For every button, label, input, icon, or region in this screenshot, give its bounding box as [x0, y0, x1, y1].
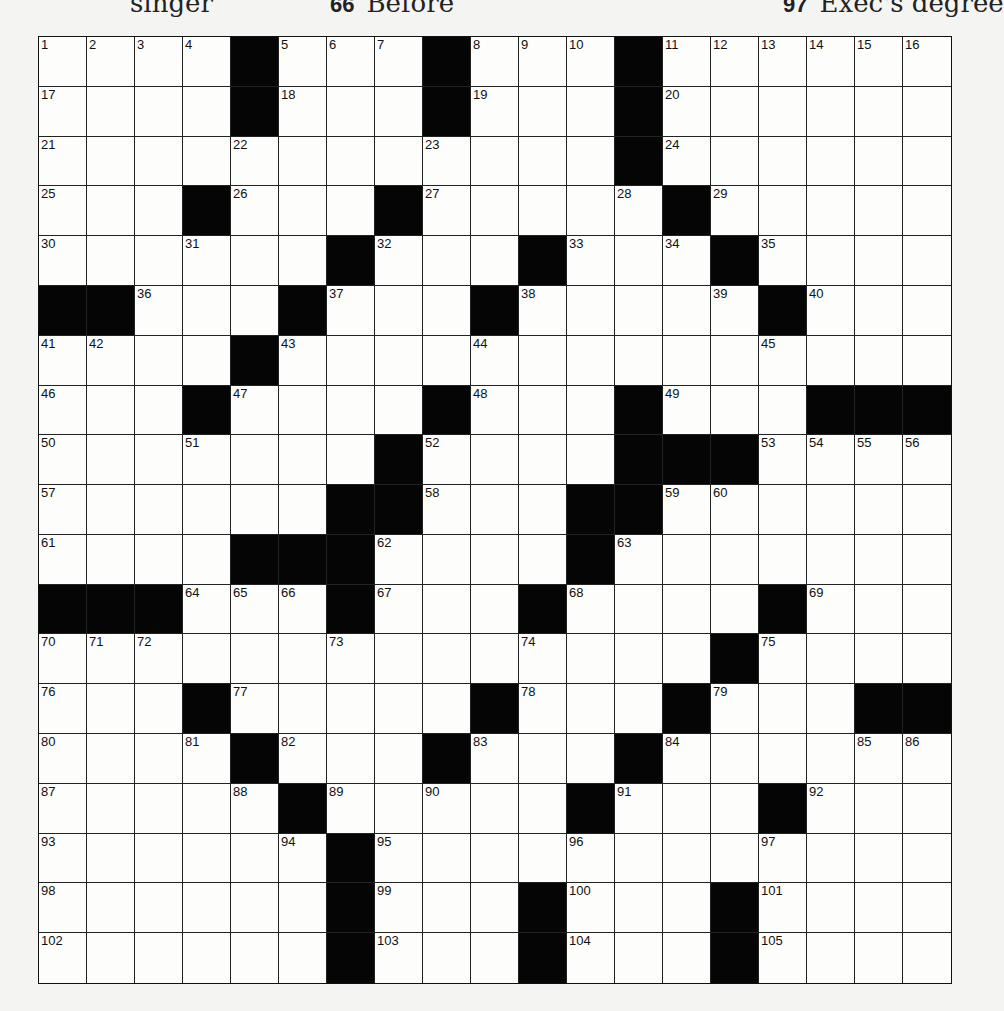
grid-cell[interactable]: 58: [423, 485, 471, 535]
grid-cell[interactable]: [279, 684, 327, 734]
grid-cell[interactable]: 97: [759, 834, 807, 884]
grid-cell[interactable]: 9: [519, 37, 567, 87]
grid-cell[interactable]: [423, 236, 471, 286]
grid-cell[interactable]: [663, 535, 711, 585]
grid-cell[interactable]: [615, 585, 663, 635]
grid-cell[interactable]: 19: [471, 87, 519, 137]
grid-cell[interactable]: 16: [903, 37, 951, 87]
grid-cell[interactable]: 21: [39, 137, 87, 187]
grid-cell[interactable]: [855, 883, 903, 933]
grid-cell[interactable]: [327, 435, 375, 485]
grid-cell[interactable]: [855, 236, 903, 286]
grid-cell[interactable]: 98: [39, 883, 87, 933]
grid-cell[interactable]: 71: [87, 634, 135, 684]
grid-cell[interactable]: [519, 336, 567, 386]
grid-cell[interactable]: 20: [663, 87, 711, 137]
grid-cell[interactable]: 24: [663, 137, 711, 187]
grid-cell[interactable]: 83: [471, 734, 519, 784]
grid-cell[interactable]: [807, 87, 855, 137]
grid-cell[interactable]: [135, 485, 183, 535]
grid-cell[interactable]: 65: [231, 585, 279, 635]
grid-cell[interactable]: 31: [183, 236, 231, 286]
grid-cell[interactable]: [615, 883, 663, 933]
grid-cell[interactable]: [135, 87, 183, 137]
grid-cell[interactable]: 91: [615, 784, 663, 834]
grid-cell[interactable]: 64: [183, 585, 231, 635]
grid-cell[interactable]: [279, 435, 327, 485]
grid-cell[interactable]: 100: [567, 883, 615, 933]
grid-cell[interactable]: 35: [759, 236, 807, 286]
grid-cell[interactable]: [807, 734, 855, 784]
grid-cell[interactable]: 86: [903, 734, 951, 784]
grid-cell[interactable]: 29: [711, 186, 759, 236]
grid-cell[interactable]: [759, 684, 807, 734]
grid-cell[interactable]: [567, 435, 615, 485]
grid-cell[interactable]: [759, 386, 807, 436]
grid-cell[interactable]: [327, 684, 375, 734]
grid-cell[interactable]: 50: [39, 435, 87, 485]
grid-cell[interactable]: 18: [279, 87, 327, 137]
grid-cell[interactable]: 5: [279, 37, 327, 87]
grid-cell[interactable]: [615, 684, 663, 734]
grid-cell[interactable]: [711, 585, 759, 635]
grid-cell[interactable]: [87, 87, 135, 137]
grid-cell[interactable]: 92: [807, 784, 855, 834]
grid-cell[interactable]: 103: [375, 933, 423, 983]
grid-cell[interactable]: [855, 535, 903, 585]
grid-cell[interactable]: [135, 684, 183, 734]
grid-cell[interactable]: [855, 87, 903, 137]
grid-cell[interactable]: 13: [759, 37, 807, 87]
grid-cell[interactable]: [855, 634, 903, 684]
grid-cell[interactable]: [231, 286, 279, 336]
grid-cell[interactable]: [135, 784, 183, 834]
grid-cell[interactable]: [231, 883, 279, 933]
grid-cell[interactable]: [375, 137, 423, 187]
grid-cell[interactable]: 30: [39, 236, 87, 286]
grid-cell[interactable]: [903, 137, 951, 187]
grid-cell[interactable]: [135, 236, 183, 286]
grid-cell[interactable]: [375, 87, 423, 137]
grid-cell[interactable]: [375, 684, 423, 734]
grid-cell[interactable]: [519, 485, 567, 535]
grid-cell[interactable]: [759, 734, 807, 784]
grid-cell[interactable]: [903, 485, 951, 535]
grid-cell[interactable]: 77: [231, 684, 279, 734]
grid-cell[interactable]: [711, 535, 759, 585]
grid-cell[interactable]: [423, 535, 471, 585]
grid-cell[interactable]: [87, 137, 135, 187]
grid-cell[interactable]: [87, 386, 135, 436]
grid-cell[interactable]: 38: [519, 286, 567, 336]
grid-cell[interactable]: [807, 634, 855, 684]
grid-cell[interactable]: 25: [39, 186, 87, 236]
grid-cell[interactable]: [423, 336, 471, 386]
grid-cell[interactable]: [711, 386, 759, 436]
grid-cell[interactable]: 37: [327, 286, 375, 336]
grid-cell[interactable]: 22: [231, 137, 279, 187]
grid-cell[interactable]: [855, 137, 903, 187]
grid-cell[interactable]: 39: [711, 286, 759, 336]
grid-cell[interactable]: [231, 933, 279, 983]
grid-cell[interactable]: [903, 634, 951, 684]
grid-cell[interactable]: [615, 834, 663, 884]
grid-cell[interactable]: [87, 485, 135, 535]
grid-cell[interactable]: 10: [567, 37, 615, 87]
grid-cell[interactable]: 67: [375, 585, 423, 635]
grid-cell[interactable]: 62: [375, 535, 423, 585]
grid-cell[interactable]: [87, 784, 135, 834]
grid-cell[interactable]: [807, 137, 855, 187]
grid-cell[interactable]: 17: [39, 87, 87, 137]
grid-cell[interactable]: 3: [135, 37, 183, 87]
grid-cell[interactable]: 34: [663, 236, 711, 286]
grid-cell[interactable]: 74: [519, 634, 567, 684]
grid-cell[interactable]: [855, 286, 903, 336]
grid-cell[interactable]: [87, 834, 135, 884]
grid-cell[interactable]: 101: [759, 883, 807, 933]
grid-cell[interactable]: [567, 336, 615, 386]
grid-cell[interactable]: 84: [663, 734, 711, 784]
grid-cell[interactable]: 41: [39, 336, 87, 386]
grid-cell[interactable]: [615, 336, 663, 386]
grid-cell[interactable]: [87, 734, 135, 784]
grid-cell[interactable]: [327, 336, 375, 386]
grid-cell[interactable]: [471, 634, 519, 684]
grid-cell[interactable]: [135, 186, 183, 236]
